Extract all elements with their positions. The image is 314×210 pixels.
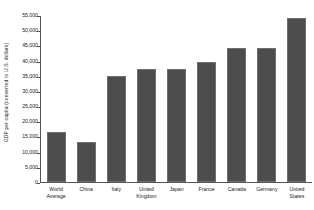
bar-slot [222,16,252,182]
y-tick-mark [37,122,40,123]
y-tick-label: 25,000 [12,104,38,109]
y-tick-mark [37,31,40,32]
x-axis-line [40,182,312,183]
y-tick-label: 45,000 [12,44,38,49]
bar [137,69,156,182]
y-tick-mark [37,16,40,17]
y-tick-mark [37,168,40,169]
y-tick-label: 50,000 [12,29,38,34]
x-tick-label: World Average [41,186,71,199]
y-tick-mark [37,137,40,138]
y-tick-label: 20,000 [12,120,38,125]
bar [197,62,216,182]
bar [287,18,306,182]
y-tick-label: 30,000 [12,89,38,94]
x-tick-label: Canada [222,186,252,193]
y-tick-label: 55,000 [12,13,38,18]
y-tick-mark [37,62,40,63]
bar [107,76,126,182]
bar [77,142,96,182]
y-tick-mark [37,46,40,47]
bar [257,48,276,182]
plot-area [40,16,312,183]
x-tick-label: Italy [101,186,131,193]
y-tick-mark [37,92,40,93]
bar-slot [192,16,222,182]
y-tick-label: 5,000 [12,165,38,170]
y-tick-mark [37,153,40,154]
y-tick-label: 35,000 [12,74,38,79]
gdp-per-capita-bar-chart: GDP per capita (converted to U.S. dollar… [0,0,314,210]
x-tick-label: United Kingdom [131,186,161,199]
x-axis-tick-labels: World AverageChinaItalyUnited KingdomJap… [41,186,312,210]
bar-slot [282,16,312,182]
y-axis-title-text: GDP per capita (converted to U.S. dollar… [4,43,9,143]
x-tick-label: China [71,186,101,193]
bar [227,48,246,182]
bar-slot [252,16,282,182]
y-tick-mark [37,77,40,78]
bar-slot [131,16,161,182]
x-tick-label: United States [282,186,312,199]
bars-layer [41,16,312,182]
bar-slot [71,16,101,182]
y-axis-tick-labels: 55,00050,00045,00040,00035,00030,00025,0… [12,0,38,210]
x-tick-label: France [192,186,222,193]
bar-slot [101,16,131,182]
x-tick-label: Japan [161,186,191,193]
bar [47,132,66,182]
y-tick-label: 40,000 [12,59,38,64]
x-tick-label: Germany [252,186,282,193]
y-tick-label: 0 [12,180,38,185]
y-tick-mark [37,183,40,184]
y-tick-mark [37,107,40,108]
bar-slot [41,16,71,182]
y-tick-label: 15,000 [12,135,38,140]
y-tick-label: 10,000 [12,150,38,155]
bar-slot [161,16,191,182]
bar [167,69,186,182]
